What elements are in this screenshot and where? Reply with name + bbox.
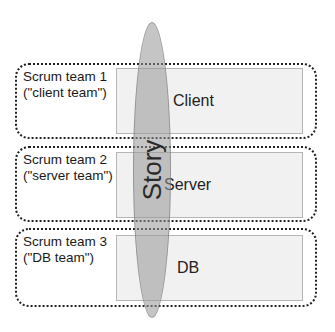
team-nickname-2: ("server team") <box>23 168 113 184</box>
component-label-server: Server <box>164 176 211 194</box>
story-label: Story <box>137 140 168 201</box>
component-label-db: DB <box>177 259 199 277</box>
team-label-2: Scrum team 2 ("server team") <box>23 152 113 184</box>
component-label-client: Client <box>173 92 214 110</box>
team-name-2: Scrum team 2 <box>23 152 113 168</box>
team-label-1: Scrum team 1 ("client team") <box>23 69 107 101</box>
team-name-1: Scrum team 1 <box>23 69 107 85</box>
team-name-3: Scrum team 3 <box>23 234 107 250</box>
team-label-3: Scrum team 3 ("DB team") <box>23 234 107 266</box>
team-nickname-1: ("client team") <box>23 85 107 101</box>
team-nickname-3: ("DB team") <box>23 250 107 266</box>
